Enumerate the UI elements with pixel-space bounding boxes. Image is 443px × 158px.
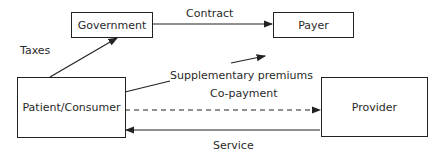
service-label: Service bbox=[213, 139, 254, 152]
payer-node: Payer bbox=[273, 12, 354, 38]
supplementary-arrow bbox=[231, 56, 265, 63]
taxes-arrow bbox=[50, 38, 117, 77]
supplementary-label: Supplementary premiums bbox=[170, 69, 313, 82]
government-label: Government bbox=[78, 19, 147, 32]
provider-label: Provider bbox=[352, 101, 397, 114]
payer-label: Payer bbox=[298, 19, 329, 32]
government-node: Government bbox=[71, 12, 153, 38]
copayment-label: Co-payment bbox=[210, 87, 278, 100]
contract-label: Contract bbox=[186, 7, 233, 20]
patient-label: Patient/Consumer bbox=[22, 101, 120, 114]
provider-node: Provider bbox=[321, 77, 428, 137]
supplementary-line bbox=[125, 81, 170, 92]
taxes-label: Taxes bbox=[20, 44, 50, 57]
patient-node: Patient/Consumer bbox=[17, 77, 126, 138]
